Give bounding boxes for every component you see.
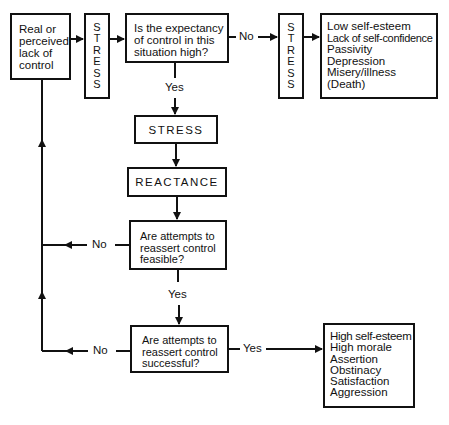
reactance-box: REACTANCE [127, 167, 227, 197]
question-line: of control in this [134, 34, 227, 46]
question-line: Is the expectancy [134, 22, 227, 34]
outcome-item: Aggression [330, 387, 413, 398]
stress-box: STRESS [134, 115, 218, 144]
question-line: situation high? [134, 46, 227, 58]
stress-vertical-box-2: S T R E S S [278, 13, 304, 99]
edge-label-successful-yes: Yes [241, 342, 264, 354]
stress-letter: S [93, 79, 100, 91]
edge-label-feasible-no: No [90, 238, 109, 250]
outcome-item: Low self-esteem [327, 21, 436, 33]
edge-label-expectancy-yes: Yes [163, 81, 186, 93]
outcome-item: (Death) [327, 79, 436, 91]
outcome-item: Misery/illness [327, 67, 436, 79]
question-line: Are attempts to [140, 231, 225, 243]
question-expectancy-box: Is the expectancy of control in this sit… [125, 13, 229, 63]
question-line: successful? [142, 358, 227, 370]
start-box-line: perceived [19, 35, 69, 47]
positive-outcomes-box: High self-esteem High morale Assertion O… [323, 323, 415, 408]
stress-letter: S [287, 79, 294, 91]
stress-letter: T [94, 33, 101, 45]
start-box-lack-of-control: Real or perceived lack of control [10, 13, 71, 80]
negative-outcomes-box: Low self-esteem Lack of self-confidence … [320, 13, 438, 99]
start-box-line: control [19, 59, 69, 71]
outcome-item: Passivity [327, 44, 436, 56]
question-successful-box: Are attempts to reassert control success… [130, 325, 229, 373]
stress-vertical-box-1: S T R E S S [84, 13, 110, 99]
question-line: feasible? [140, 254, 225, 266]
outcome-item: High morale [330, 342, 413, 353]
edge-label-successful-no: No [91, 344, 110, 356]
stress-letter: E [287, 56, 294, 68]
question-line: Are attempts to [142, 335, 227, 347]
stress-letter: T [288, 33, 295, 45]
start-box-line: Real or [19, 23, 69, 35]
stress-letter: E [93, 56, 100, 68]
edge-label-feasible-yes: Yes [166, 288, 189, 300]
edge-label-expectancy-no: No [237, 30, 256, 42]
question-feasible-box: Are attempts to reassert control feasibl… [129, 220, 227, 270]
start-box-line: lack of [19, 47, 69, 59]
